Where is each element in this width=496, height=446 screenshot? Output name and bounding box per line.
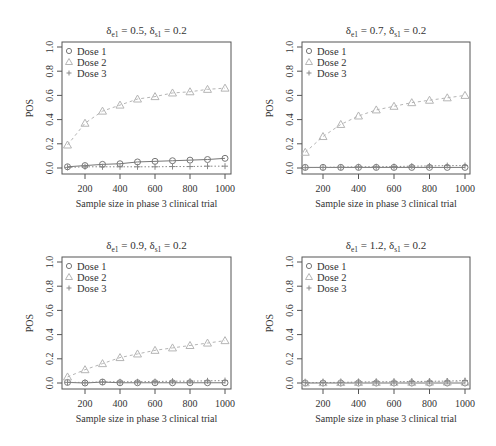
y-tick-label: 1.0 [44, 256, 55, 269]
plus-marker-icon [427, 163, 433, 169]
legend: Dose 1Dose 2Dose 3 [306, 46, 347, 79]
triangle-marker-icon [461, 91, 469, 98]
legend-circle-icon [306, 48, 311, 53]
legend-triangle-icon [66, 59, 73, 65]
legend-plus-icon [307, 286, 312, 291]
legend-circle-icon [66, 263, 71, 268]
plus-marker-icon [117, 164, 123, 170]
chart-panel-1: δe1 = 0.5, δs1 = 0.20.00.20.40.60.81.020… [24, 24, 235, 209]
y-tick-label: 0.4 [284, 113, 295, 126]
x-tick-label: 1000 [455, 398, 475, 409]
legend: Dose 1Dose 2Dose 3 [66, 261, 107, 294]
y-tick-label: 0.4 [44, 113, 55, 126]
y-axis-label: POS [24, 314, 35, 332]
y-tick-label: 0.8 [284, 280, 295, 293]
plus-marker-icon [205, 163, 211, 169]
plus-marker-icon [135, 379, 141, 385]
y-tick-label: 0.2 [284, 138, 295, 151]
legend-label-dose-3: Dose 3 [317, 68, 346, 79]
plus-marker-icon [152, 164, 158, 170]
legend-triangle-icon [306, 274, 313, 280]
series-line-dose-3 [68, 381, 226, 383]
x-tick-label: 200 [316, 183, 331, 194]
plus-marker-icon [409, 379, 415, 385]
legend-label-dose-3: Dose 3 [77, 283, 106, 294]
legend-label-dose-1: Dose 1 [77, 46, 106, 57]
legend-plus-icon [307, 71, 312, 76]
chart-panel-2: δe1 = 0.7, δs1 = 0.20.00.20.40.60.81.020… [264, 24, 475, 209]
triangle-marker-icon [81, 119, 89, 126]
y-tick-label: 0.0 [284, 377, 295, 390]
y-tick-label: 0.8 [44, 280, 55, 293]
plus-marker-icon [409, 163, 415, 169]
chart-title: δe1 = 0.5, δs1 = 0.2 [106, 24, 187, 39]
legend-label-dose-2: Dose 2 [77, 272, 106, 283]
y-tick-label: 0.0 [284, 162, 295, 175]
legend-label-dose-2: Dose 2 [317, 57, 346, 68]
legend-label-dose-3: Dose 3 [317, 283, 346, 294]
x-tick-label: 1000 [455, 183, 475, 194]
plus-marker-icon [170, 164, 176, 170]
x-tick-label: 400 [351, 183, 366, 194]
y-tick-label: 0.4 [284, 328, 295, 341]
legend-label-dose-1: Dose 1 [317, 261, 346, 272]
chart-panel-3: δe1 = 0.9, δs1 = 0.20.00.20.40.60.81.020… [24, 239, 235, 424]
x-tick-label: 200 [78, 398, 93, 409]
y-tick-label: 0.0 [44, 162, 55, 175]
x-axis-label: Sample size in phase 3 clinical trial [315, 413, 457, 424]
y-axis-label: POS [264, 314, 275, 332]
legend-label-dose-2: Dose 2 [77, 57, 106, 68]
legend-label-dose-3: Dose 3 [77, 68, 106, 79]
plus-marker-icon [117, 379, 123, 385]
x-tick-label: 800 [183, 398, 198, 409]
plus-marker-icon [391, 164, 397, 170]
y-axis-label: POS [264, 99, 275, 117]
y-tick-label: 0.6 [44, 304, 55, 317]
x-tick-label: 800 [422, 183, 437, 194]
x-tick-label: 600 [148, 183, 163, 194]
y-tick-label: 0.2 [44, 138, 55, 151]
x-tick-label: 400 [113, 183, 128, 194]
plus-marker-icon [82, 164, 88, 170]
x-tick-label: 600 [148, 398, 163, 409]
legend-label-dose-1: Dose 1 [77, 261, 106, 272]
y-tick-label: 0.4 [44, 328, 55, 341]
x-axis-label: Sample size in phase 3 clinical trial [76, 413, 218, 424]
y-tick-label: 0.2 [44, 353, 55, 366]
y-tick-label: 1.0 [284, 256, 295, 269]
y-tick-label: 0.0 [44, 377, 55, 390]
x-axis-label: Sample size in phase 3 clinical trial [76, 198, 218, 209]
x-axis-label: Sample size in phase 3 clinical trial [315, 198, 457, 209]
plus-marker-icon [152, 379, 158, 385]
series-line-dose-2 [305, 95, 465, 152]
chart-panel-4: δe1 = 1.2, δs1 = 0.20.00.20.40.60.81.020… [264, 239, 475, 424]
chart-title: δe1 = 1.2, δs1 = 0.2 [346, 239, 427, 254]
y-tick-label: 0.6 [284, 89, 295, 102]
legend-triangle-icon [66, 274, 73, 280]
x-tick-label: 800 [422, 398, 437, 409]
legend-triangle-icon [306, 59, 313, 65]
legend-plus-icon [67, 286, 72, 291]
triangle-marker-icon [337, 120, 345, 127]
x-tick-label: 1000 [215, 398, 235, 409]
legend-circle-icon [306, 263, 311, 268]
y-tick-label: 0.8 [284, 65, 295, 78]
y-tick-label: 1.0 [44, 41, 55, 54]
plus-marker-icon [373, 379, 379, 385]
x-tick-label: 400 [351, 398, 366, 409]
legend: Dose 1Dose 2Dose 3 [66, 46, 107, 79]
y-tick-label: 0.6 [284, 304, 295, 317]
plus-marker-icon [356, 379, 362, 385]
triangle-marker-icon [221, 84, 229, 91]
x-tick-label: 600 [387, 398, 402, 409]
chart-title: δe1 = 0.7, δs1 = 0.2 [346, 24, 427, 39]
y-tick-label: 0.8 [44, 65, 55, 78]
chart-title: δe1 = 0.9, δs1 = 0.2 [106, 239, 187, 254]
y-axis-label: POS [24, 99, 35, 117]
plus-marker-icon [187, 378, 193, 384]
series-line-dose-1 [68, 158, 226, 166]
x-tick-label: 1000 [215, 183, 235, 194]
series-line-dose-2 [68, 88, 226, 145]
legend-label-dose-1: Dose 1 [317, 46, 346, 57]
plus-marker-icon [187, 164, 193, 170]
